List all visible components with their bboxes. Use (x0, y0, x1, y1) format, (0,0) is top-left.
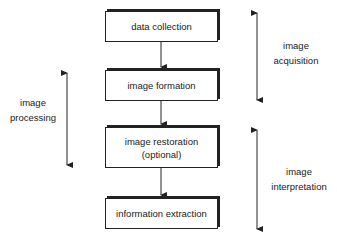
step-label: information extraction (116, 207, 207, 220)
step-information-extraction: information extraction (105, 198, 218, 229)
label-image-acquisition: image acquisition (266, 38, 326, 68)
label-line: processing (4, 110, 62, 125)
step-sublabel: (optional) (142, 148, 182, 161)
step-image-restoration: image restoration (optional) (105, 127, 218, 168)
step-label: image restoration (125, 135, 198, 148)
step-label: data collection (131, 20, 192, 33)
step-image-formation: image formation (105, 70, 218, 101)
label-line: acquisition (266, 53, 326, 68)
label-image-interpretation: image interpretation (264, 164, 334, 194)
label-line: interpretation (264, 179, 334, 194)
step-data-collection: data collection (105, 11, 218, 42)
step-label: image formation (127, 79, 195, 92)
label-line: image (264, 164, 334, 179)
label-line: image (4, 95, 62, 110)
label-line: image (266, 38, 326, 53)
label-image-processing: image processing (4, 95, 62, 125)
